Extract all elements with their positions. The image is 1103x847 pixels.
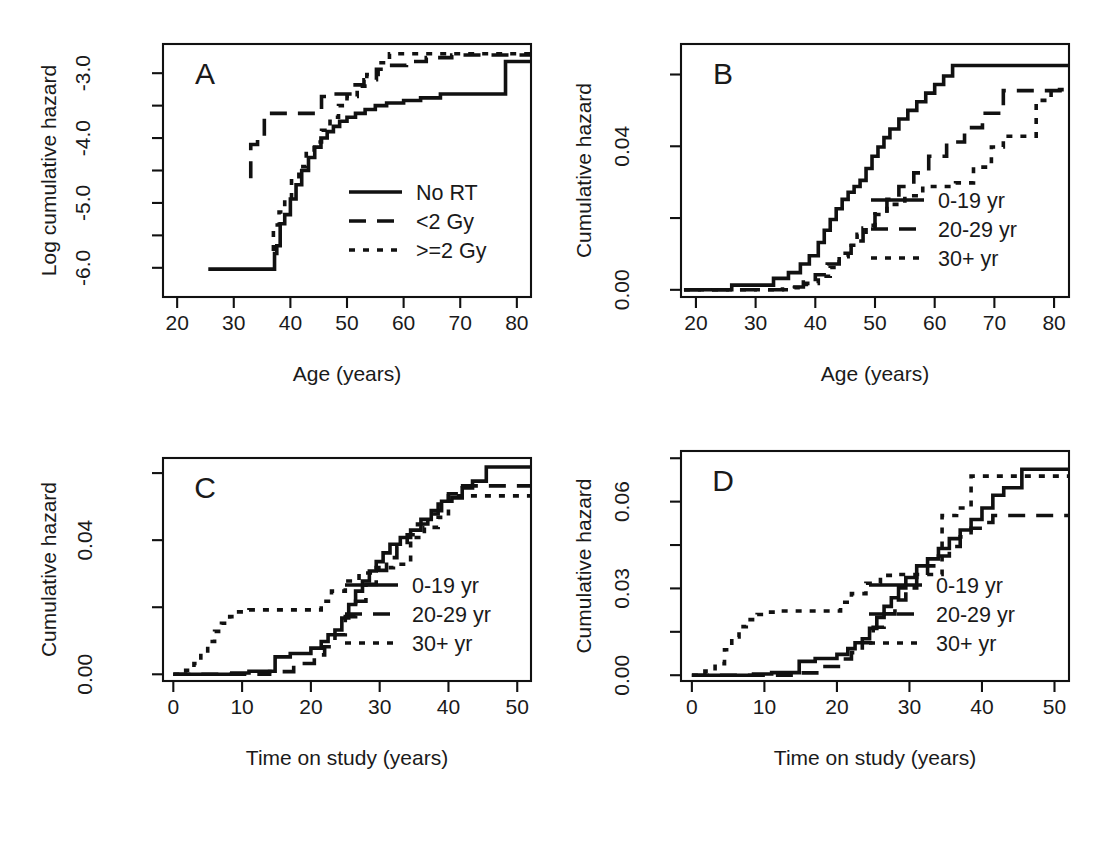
plot-frame xyxy=(163,458,531,681)
y-axis-title: Log cumulative hazard xyxy=(37,65,60,276)
y-tick-label: -3.0 xyxy=(71,55,94,91)
x-tick-label: 20 xyxy=(825,695,848,718)
x-tick-label: 70 xyxy=(983,311,1006,334)
legend-label: >=2 Gy xyxy=(416,239,487,263)
y-tick-label: 0.04 xyxy=(73,519,96,560)
x-axis-title: Age (years) xyxy=(293,362,402,385)
x-tick-label: 80 xyxy=(505,311,528,334)
y-tick-label: 0.00 xyxy=(610,655,633,696)
y-axis-title: Cumulative hazard xyxy=(37,482,60,657)
x-tick-label: 30 xyxy=(222,311,245,334)
legend-label: 30+ yr xyxy=(938,247,998,271)
series-curve xyxy=(692,469,1069,675)
legend-label: <2 Gy xyxy=(416,210,474,234)
x-tick-label: 20 xyxy=(299,695,322,718)
x-tick-label: 40 xyxy=(970,695,993,718)
x-tick-label: 10 xyxy=(753,695,776,718)
x-tick-label: 30 xyxy=(744,311,767,334)
y-tick-label: 0.00 xyxy=(73,654,96,695)
x-tick-label: 60 xyxy=(923,311,946,334)
x-axis-title: Time on study (years) xyxy=(246,746,448,769)
series-curve xyxy=(251,55,531,178)
plot-frame xyxy=(681,451,1069,681)
x-tick-label: 10 xyxy=(230,695,253,718)
panel-letter: D xyxy=(712,464,734,497)
x-tick-label: 0 xyxy=(167,695,179,718)
series-curve xyxy=(273,54,531,251)
x-axis-title: Age (years) xyxy=(821,362,930,385)
legend-label: 0-19 yr xyxy=(936,574,1003,598)
figure-container: 20304050607080-6.0-5.0-4.0-3.0Log cumula… xyxy=(0,0,1103,847)
x-tick-label: 60 xyxy=(392,311,415,334)
series-curve xyxy=(692,516,1069,676)
x-tick-label: 50 xyxy=(506,695,529,718)
x-tick-label: 50 xyxy=(863,311,886,334)
series-curve xyxy=(684,66,1069,290)
y-tick-label: 0.06 xyxy=(610,481,633,522)
x-tick-label: 30 xyxy=(368,695,391,718)
x-tick-label: 20 xyxy=(684,311,707,334)
y-tick-label: -6.0 xyxy=(71,250,94,286)
series-curve xyxy=(692,476,1069,675)
series-curve xyxy=(173,467,531,674)
panel-b: 203040506070800.000.04Cumulative hazardA… xyxy=(551,0,1103,423)
y-tick-label: 0.00 xyxy=(610,269,633,310)
x-axis-title: Time on study (years) xyxy=(774,746,976,769)
series-curve xyxy=(684,91,1069,290)
x-tick-label: 80 xyxy=(1042,311,1065,334)
x-tick-label: 50 xyxy=(335,311,358,334)
legend-label: No RT xyxy=(416,181,478,205)
x-tick-label: 0 xyxy=(686,695,698,718)
y-tick-label: 0.04 xyxy=(610,126,633,167)
panel-a: 20304050607080-6.0-5.0-4.0-3.0Log cumula… xyxy=(0,0,551,423)
x-tick-label: 30 xyxy=(898,695,921,718)
panel-d: 010203040500.000.030.06Cumulative hazard… xyxy=(551,423,1103,847)
x-tick-label: 40 xyxy=(804,311,827,334)
x-tick-label: 50 xyxy=(1043,695,1066,718)
x-tick-label: 20 xyxy=(165,311,188,334)
legend-label: 20-29 yr xyxy=(938,218,1017,242)
panel-letter: B xyxy=(713,57,733,90)
legend-label: 30+ yr xyxy=(412,632,472,656)
legend-label: 30+ yr xyxy=(936,632,996,656)
legend-label: 0-19 yr xyxy=(412,574,479,598)
legend-label: 20-29 yr xyxy=(936,603,1015,627)
panel-letter: A xyxy=(195,57,215,90)
y-axis-title: Cumulative hazard xyxy=(572,83,595,258)
panel-c: 010203040500.000.04Cumulative hazardTime… xyxy=(0,423,551,847)
legend-label: 20-29 yr xyxy=(412,603,491,627)
y-tick-label: -4.0 xyxy=(71,120,94,156)
y-tick-label: -5.0 xyxy=(71,185,94,221)
x-tick-label: 40 xyxy=(279,311,302,334)
x-tick-label: 40 xyxy=(437,695,460,718)
y-tick-label: 0.03 xyxy=(610,568,633,609)
x-tick-label: 70 xyxy=(449,311,472,334)
panel-letter: C xyxy=(194,471,216,504)
legend-label: 0-19 yr xyxy=(938,189,1005,213)
y-axis-title: Cumulative hazard xyxy=(572,478,595,653)
